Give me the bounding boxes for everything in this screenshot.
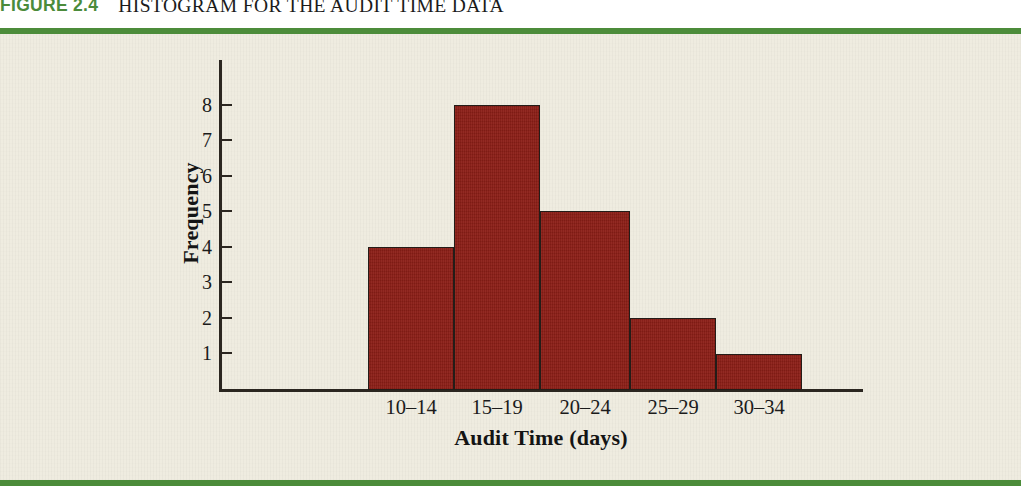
histogram-bar-30-34 bbox=[716, 354, 802, 390]
histogram-plot: 1 2 3 4 5 6 7 8 10–14 15–19 20–24 25–29 … bbox=[0, 0, 1021, 491]
histogram-bar-20-24 bbox=[540, 211, 630, 390]
histogram-bar-25-29 bbox=[630, 318, 716, 390]
histogram-bar-15-19 bbox=[454, 105, 540, 390]
y-tick-1 bbox=[221, 352, 232, 354]
x-axis-title: Audit Time (days) bbox=[219, 425, 863, 451]
y-axis-title: Frequency bbox=[178, 128, 204, 298]
y-tick-4 bbox=[221, 246, 232, 248]
histogram-bar-10-14 bbox=[368, 247, 454, 390]
figure-page: FIGURE 2.4HISTOGRAM FOR THE AUDIT TIME D… bbox=[0, 0, 1021, 491]
y-tick-7 bbox=[221, 139, 232, 141]
y-tick-5 bbox=[221, 210, 232, 212]
y-axis-line bbox=[219, 60, 222, 391]
y-tick-label-8: 8 bbox=[182, 95, 212, 115]
y-tick-2 bbox=[221, 317, 232, 319]
y-tick-label-2: 2 bbox=[182, 308, 212, 328]
y-tick-6 bbox=[221, 175, 232, 177]
y-tick-8 bbox=[221, 104, 232, 106]
y-tick-label-1: 1 bbox=[182, 343, 212, 363]
x-tick-label-30-34: 30–34 bbox=[704, 396, 814, 420]
y-tick-3 bbox=[221, 281, 232, 283]
